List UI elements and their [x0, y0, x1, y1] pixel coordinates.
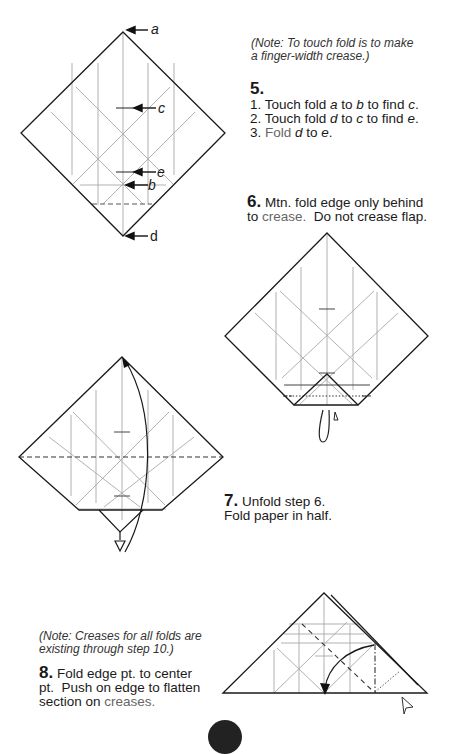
step6-line-2: to crease. Do not crease flap.	[247, 210, 427, 224]
step8-note: (Note: Creases for all folds are existin…	[39, 630, 202, 656]
point-label-a: a	[151, 21, 159, 37]
step5-diagram	[21, 27, 225, 240]
step7-line-2: Fold paper in half.	[224, 509, 332, 523]
step5-note: (Note: To touch fold is to make a finger…	[251, 37, 413, 63]
page-number-badge	[208, 720, 242, 754]
point-label-e: e	[157, 164, 165, 180]
step5-note-line2: a finger-width crease.)	[251, 50, 413, 63]
step6-instructions: 6. Mtn. fold edge only behind to crease.…	[247, 195, 427, 224]
step8-line-1: 8. Fold edge pt. to center	[39, 666, 200, 681]
point-label-d: d	[150, 228, 158, 244]
step8-diagram	[223, 593, 427, 714]
point-label-c: c	[158, 100, 165, 116]
step7-line-1: 7. Unfold step 6.	[224, 494, 332, 509]
step7-instructions: 7. Unfold step 6. Fold paper in half.	[224, 494, 332, 523]
step8-line-3: section on creases.	[39, 695, 200, 709]
point-label-b: b	[148, 177, 156, 193]
step6-line-1: 6. Mtn. fold edge only behind	[247, 195, 427, 210]
step6-diagram	[225, 233, 428, 442]
step8-note-line2: existing through step 10.)	[39, 643, 202, 656]
step5-instructions: 5. 1. Touch fold a to b to find c. 2. To…	[250, 80, 419, 140]
step5-number: 5.	[250, 80, 419, 98]
step5-line-3: 3. Fold d to e.	[250, 126, 419, 140]
step8-instructions: 8. Fold edge pt. to center pt. Push on e…	[39, 666, 200, 709]
step7-diagram	[19, 357, 223, 552]
step5-line-2: 2. Touch fold d to c to find e.	[250, 112, 419, 126]
step5-line-1: 1. Touch fold a to b to find c.	[250, 98, 419, 112]
step8-line-2: pt. Push on edge to flatten	[39, 681, 200, 695]
